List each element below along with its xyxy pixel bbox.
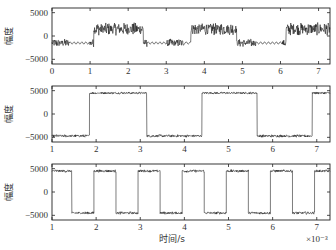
y-tick-label: −5000 xyxy=(25,54,49,64)
y-tick-label: 0 xyxy=(44,187,49,197)
x-tick-label: 6 xyxy=(270,222,275,232)
plot-panel-middle: 1234567−500005000幅度 xyxy=(3,86,330,154)
x-tick-label: 5 xyxy=(226,144,231,154)
x-tick-label: 6 xyxy=(270,144,275,154)
y-tick-label: 5000 xyxy=(30,86,49,96)
x-tick-label: 4 xyxy=(182,144,187,154)
y-tick-label: 5000 xyxy=(30,8,49,18)
signal-trace xyxy=(52,92,330,137)
x-tick-label: 7 xyxy=(316,66,321,76)
x-tick-label: 3 xyxy=(138,144,143,154)
y-axis-label: 幅度 xyxy=(3,105,14,123)
y-tick-label: 0 xyxy=(44,31,49,41)
y-axis-label: 幅度 xyxy=(3,27,14,45)
x-tick-label: 6 xyxy=(278,66,283,76)
y-tick-label: −5000 xyxy=(25,210,49,220)
plot-panel-bottom: 1234567−500005000幅度 xyxy=(3,164,330,232)
x-tick-label: 4 xyxy=(182,222,187,232)
x-tick-label: 2 xyxy=(126,66,131,76)
x-tick-label: 7 xyxy=(315,222,320,232)
x-tick-label: 1 xyxy=(50,144,55,154)
x-tick-label: 2 xyxy=(94,144,99,154)
y-axis-label: 幅度 xyxy=(3,183,14,201)
x-tick-label: 3 xyxy=(164,66,169,76)
x-tick-label: 7 xyxy=(315,144,320,154)
signal-trace xyxy=(52,23,330,47)
x-tick-label: 0 xyxy=(50,66,55,76)
y-tick-label: 5000 xyxy=(30,164,49,174)
y-tick-label: −5000 xyxy=(25,132,49,142)
x-tick-label: 1 xyxy=(88,66,93,76)
x-tick-label: 5 xyxy=(240,66,245,76)
x-tick-label: 2 xyxy=(94,222,99,232)
x-axis-multiplier: ×10⁻³ xyxy=(306,234,328,244)
x-tick-label: 3 xyxy=(138,222,143,232)
x-axis-label: 时间/s xyxy=(159,233,185,244)
figure: 01234567−500005000幅度 1234567−500005000幅度… xyxy=(0,0,336,250)
axes-frame xyxy=(52,86,330,142)
x-tick-label: 1 xyxy=(50,222,55,232)
y-tick-label: 0 xyxy=(44,109,49,119)
plot-panel-top: 01234567−500005000幅度 xyxy=(3,8,330,76)
signal-trace xyxy=(52,170,330,215)
x-tick-label: 4 xyxy=(202,66,207,76)
x-tick-label: 5 xyxy=(226,222,231,232)
